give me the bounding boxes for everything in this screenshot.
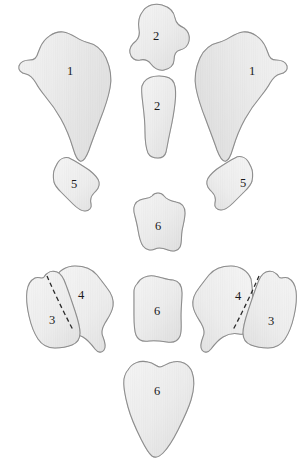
element-6-lower: 6 — [134, 276, 182, 342]
figure-plate: 1 1 2 2 5 5 — [0, 0, 306, 467]
element-1-right: 1 — [195, 32, 287, 161]
element-1-left: 1 — [19, 32, 111, 161]
figure-canvas: 1 1 2 2 5 5 — [0, 0, 306, 467]
element-6-middle: 6 — [134, 193, 185, 251]
element-6-bottom: 6 — [124, 361, 194, 457]
element-2-lower: 2 — [142, 76, 176, 158]
element-5-right: 5 — [207, 157, 253, 210]
element-2-upper: 2 — [130, 4, 189, 70]
element-5-left: 5 — [53, 158, 99, 211]
